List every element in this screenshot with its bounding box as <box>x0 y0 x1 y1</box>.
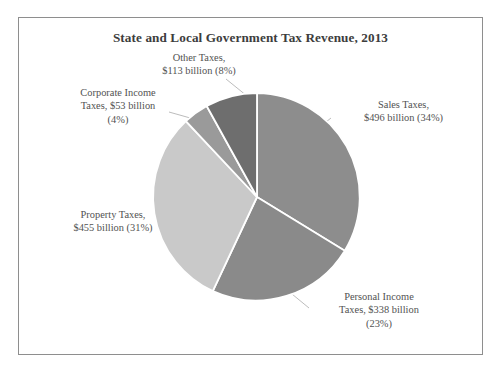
pie-label-property-taxes: Property Taxes, $455 billion (31%) <box>45 208 181 235</box>
pie-label-sales-taxes: Sales Taxes, $496 billion (34%) <box>331 98 476 125</box>
pie-label-other-taxes: Other Taxes, $113 billion (8%) <box>135 51 263 78</box>
figure-frame: State and Local Government Tax Revenue, … <box>18 17 483 355</box>
pie-slices <box>153 93 360 301</box>
pie-label-personal-income-taxes: Personal Income Taxes, $338 billion (23%… <box>309 290 449 330</box>
pie-label-corporate-income-taxes: Corporate Income Taxes, $53 billion (4%) <box>53 86 183 126</box>
pie-chart: Other Taxes, $113 billion (8%) Corporate… <box>19 18 484 356</box>
